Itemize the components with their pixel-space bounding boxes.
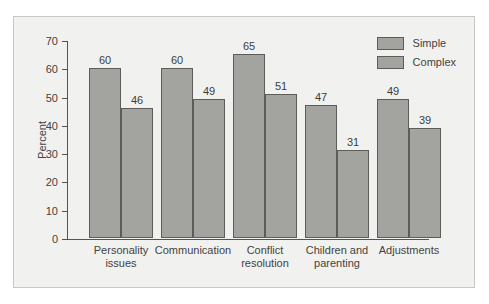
- bar-chart-figure: Percent 010203040506070 6046604965514731…: [13, 16, 475, 288]
- bar-value-label: 39: [419, 115, 431, 126]
- x-axis-category-label-line: parenting: [285, 257, 389, 270]
- bar-value-label: 60: [171, 55, 183, 66]
- y-axis-tick-label: 70: [46, 36, 58, 47]
- bar-value-label: 47: [315, 92, 327, 103]
- legend-label: Simple: [413, 38, 447, 49]
- bar-value-label: 60: [99, 55, 111, 66]
- x-axis-category-label: Adjustments: [357, 244, 461, 257]
- y-axis-tick-label: 20: [46, 177, 58, 188]
- x-axis-line: [67, 239, 429, 240]
- y-axis-tick-label: 40: [46, 120, 58, 131]
- bar: 49: [193, 99, 225, 238]
- legend-swatch: [377, 56, 404, 69]
- y-axis-tick-label: 50: [46, 92, 58, 103]
- bar: 60: [161, 68, 193, 238]
- legend-swatch: [377, 37, 404, 50]
- bar: 39: [409, 128, 441, 238]
- y-axis-tick-mark: [62, 154, 68, 155]
- x-axis-category-label-line: Adjustments: [357, 244, 461, 257]
- bar-value-label: 31: [347, 137, 359, 148]
- x-axis-category-label-line: issues: [69, 257, 173, 270]
- y-axis-tick-label: 0: [52, 234, 58, 245]
- bar-value-label: 65: [243, 41, 255, 52]
- y-axis-tick-mark: [62, 98, 68, 99]
- bar-value-label: 51: [275, 81, 287, 92]
- bar: 49: [377, 99, 409, 238]
- bar: 65: [233, 54, 265, 238]
- y-axis-tick-label: 10: [46, 205, 58, 216]
- bar: 46: [121, 108, 153, 238]
- bar-value-label: 46: [131, 95, 143, 106]
- y-axis-tick-mark: [62, 69, 68, 70]
- bar: 47: [305, 105, 337, 238]
- y-axis-tick-label: 60: [46, 64, 58, 75]
- bar: 60: [89, 68, 121, 238]
- bar-value-label: 49: [387, 86, 399, 97]
- y-axis-tick-label: 30: [46, 149, 58, 160]
- y-axis-tick-mark: [62, 41, 68, 42]
- legend-label: Complex: [413, 57, 456, 68]
- y-axis-tick-mark: [62, 182, 68, 183]
- plot-area: Percent 010203040506070 6046604965514731…: [67, 41, 418, 239]
- bar: 51: [265, 94, 297, 238]
- bar: 31: [337, 150, 369, 238]
- y-axis-tick-mark: [62, 239, 68, 240]
- legend-item: Complex: [377, 56, 456, 69]
- y-axis-tick-mark: [62, 126, 68, 127]
- legend-item: Simple: [377, 37, 456, 50]
- y-axis-tick-mark: [62, 211, 68, 212]
- legend: SimpleComplex: [377, 37, 456, 75]
- bar-value-label: 49: [203, 86, 215, 97]
